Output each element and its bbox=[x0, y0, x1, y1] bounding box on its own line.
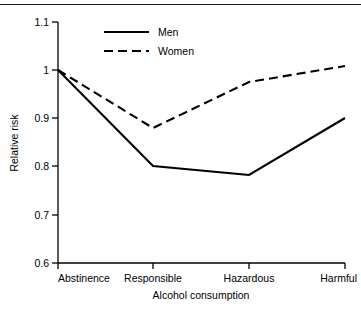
x-category-label-responsible: Responsible bbox=[124, 272, 182, 284]
y-axis-ticks bbox=[52, 22, 58, 263]
legend-label-men: Men bbox=[158, 26, 179, 38]
y-tick-label-3: 0.9 bbox=[34, 112, 49, 124]
y-tick-label-2: 0.8 bbox=[34, 160, 49, 172]
y-tick-label-1: 0.7 bbox=[34, 209, 49, 221]
x-category-label-hazardous: Hazardous bbox=[224, 272, 275, 284]
y-tick-label-4: 1 bbox=[43, 64, 49, 76]
x-axis-title: Alcohol consumption bbox=[153, 289, 250, 301]
y-tick-label-0: 0.6 bbox=[34, 257, 49, 269]
relative-risk-line-chart: 1.1 1 0.9 0.8 0.7 0.6 Abstinence Respons… bbox=[0, 0, 361, 318]
chart-legend: Men Women bbox=[104, 26, 194, 57]
series-line-women bbox=[58, 66, 345, 128]
series-line-men bbox=[58, 70, 345, 175]
y-tick-label-5: 1.1 bbox=[34, 16, 49, 28]
figure-container: 1.1 1 0.9 0.8 0.7 0.6 Abstinence Respons… bbox=[0, 0, 361, 318]
x-category-label-abstinence: Abstinence bbox=[58, 272, 110, 284]
y-axis-title: Relative risk bbox=[8, 114, 20, 172]
x-axis-ticks bbox=[58, 263, 345, 269]
legend-label-women: Women bbox=[158, 45, 194, 57]
x-category-label-harmful: Harmful bbox=[320, 272, 357, 284]
